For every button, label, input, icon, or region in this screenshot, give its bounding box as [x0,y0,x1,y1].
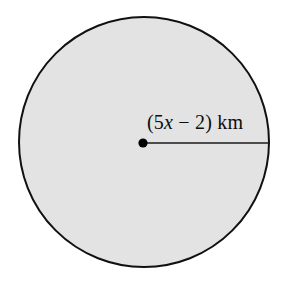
radius-label-variable: x [164,111,173,133]
radius-label-unit: km [217,111,243,133]
radius-length-label: (5x − 2) km [147,110,243,134]
radius-label-prefix: (5 [147,111,164,133]
radius-label-middle: − 2) [173,111,217,133]
circle-diagram-svg [0,0,284,284]
geometry-figure: (5x − 2) km [0,0,284,284]
center-point-dot [138,138,147,147]
